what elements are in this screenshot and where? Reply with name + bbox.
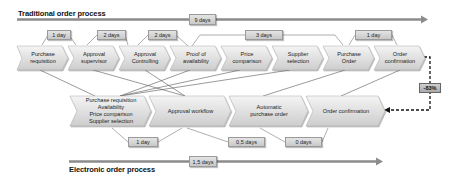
electronic-total-duration: 1,5 days: [189, 156, 217, 167]
top-duration-brackets: [42, 35, 397, 46]
duration-box: 0,5 days: [228, 137, 265, 147]
step-approval-controlling: Approval Controlling: [122, 46, 168, 70]
step-label: Purchase Order: [337, 51, 361, 65]
step-label: Supplier selection: [287, 51, 309, 65]
step-label: Automatic purchase order: [250, 104, 288, 118]
duration-box: 3 days: [245, 30, 283, 40]
step-proof-of-availability: Proof of availability: [173, 46, 219, 70]
step-label: Price comparison: [233, 51, 262, 65]
step-label: Proof of availability: [183, 51, 209, 65]
step-order-confirmation-electronic: Order confirmation: [310, 96, 382, 126]
step-approval-supervisor: Approval supervisor: [71, 46, 117, 70]
step-purchase-order: Purchase Order: [326, 46, 372, 70]
traditional-total-duration: 9 days: [189, 14, 216, 25]
step-label: Order confirmation: [323, 108, 369, 115]
step-approval-workflow: Approval workflow: [153, 96, 228, 126]
step-label: Approval supervisor: [81, 51, 107, 65]
electronic-process-title: Electronic order process: [69, 165, 155, 174]
duration-box: 2 days: [97, 30, 126, 40]
duration-box: 1 day: [128, 137, 158, 147]
duration-box: 2 days: [148, 30, 177, 40]
traditional-process-title: Traditional order process: [18, 9, 106, 18]
step-label: Purchase requisition: [30, 51, 56, 65]
mapping-lines: [40, 70, 400, 96]
step-combined-requisition: Purchase requisition Availability Price …: [74, 96, 148, 126]
step-order-confirmation: Order confirmation: [377, 46, 423, 70]
duration-box: 0 days: [285, 137, 322, 147]
step-price-comparison: Price comparison: [224, 46, 270, 70]
step-purchase-requisition: Purchase requisition: [20, 46, 66, 70]
duration-box: 1 day: [355, 30, 392, 40]
step-automatic-purchase-order: Automatic purchase order: [233, 96, 305, 126]
duration-box: 1 day: [47, 30, 71, 40]
reduction-arrowhead: [384, 107, 390, 113]
step-label: Approval Controlling: [132, 51, 159, 65]
step-label: Approval workflow: [168, 108, 213, 115]
diagram-graphics: [0, 0, 459, 180]
step-label: Purchase requisition Availability Price …: [86, 97, 137, 125]
step-label: Order confirmation: [385, 51, 415, 65]
reduction-badge: -83%: [419, 83, 441, 93]
step-supplier-selection: Supplier selection: [275, 46, 321, 70]
